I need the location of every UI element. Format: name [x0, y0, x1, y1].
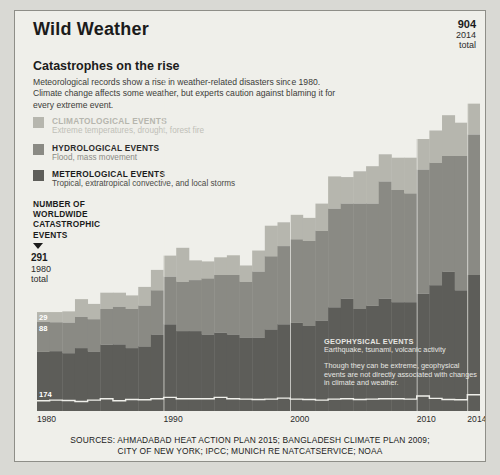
callout-2014-value: 904 [456, 19, 476, 30]
x-axis-tick-2014: 2014 [467, 414, 486, 424]
callout-2014-year: 2014 [456, 30, 476, 41]
x-axis-tick-1990: 1990 [164, 414, 183, 424]
svg-text:88: 88 [39, 324, 47, 333]
x-axis-tick-2000: 2000 [290, 414, 309, 424]
sources-line2: CITY OF NEW YORK; IPCC; MUNICH RE NATCAT… [15, 446, 485, 457]
geophysical-note-desc: Earthquake, tsunami, volcanic activity [324, 346, 479, 355]
sources-footer: SOURCES: AHMADABAD HEAT ACTION PLAN 2015… [15, 435, 485, 457]
infographic-panel: Wild Weather 904 2014 total Catastrophes… [14, 10, 486, 462]
callout-total-2014: 904 2014 total [456, 19, 476, 51]
x-axis-tick-1980: 1980 [37, 414, 56, 424]
x-axis-tick-2010: 2010 [417, 414, 436, 424]
geophysical-note: GEOPHYSICAL EVENTS Earthquake, tsunami, … [324, 337, 479, 388]
page-title: Wild Weather [33, 19, 149, 40]
svg-text:174: 174 [39, 390, 52, 399]
sources-line1: SOURCES: AHMADABAD HEAT ACTION PLAN 2015… [15, 435, 485, 446]
callout-2014-label: total [456, 40, 476, 51]
x-axis: 19801990200020102014 [15, 414, 486, 430]
geophysical-note-paragraph: Though they can be extreme, geophysical … [324, 362, 479, 388]
svg-text:29: 29 [39, 313, 47, 322]
